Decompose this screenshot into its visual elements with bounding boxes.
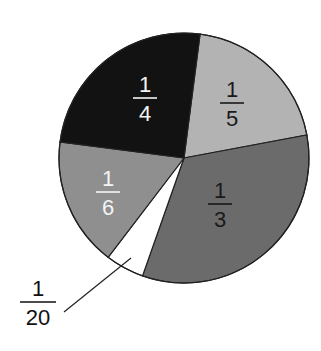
pie-chart: 15131201614: [0, 0, 321, 351]
fraction-numerator: 1: [139, 72, 151, 97]
fraction-numerator: 1: [32, 276, 44, 301]
fraction-denominator: 6: [102, 195, 114, 220]
pie-slices: [59, 33, 309, 283]
fraction-denominator: 4: [139, 101, 151, 126]
fraction-numerator: 1: [102, 166, 114, 191]
pie-slice-1-4: [60, 33, 200, 158]
slice-label-1-20: 120: [20, 276, 56, 330]
fraction-numerator: 1: [226, 77, 238, 102]
fraction-denominator: 5: [226, 106, 238, 131]
fraction-denominator: 3: [214, 207, 226, 232]
leader-line-1-20: [64, 258, 131, 312]
fraction-numerator: 1: [214, 178, 226, 203]
fraction-denominator: 20: [26, 305, 50, 330]
